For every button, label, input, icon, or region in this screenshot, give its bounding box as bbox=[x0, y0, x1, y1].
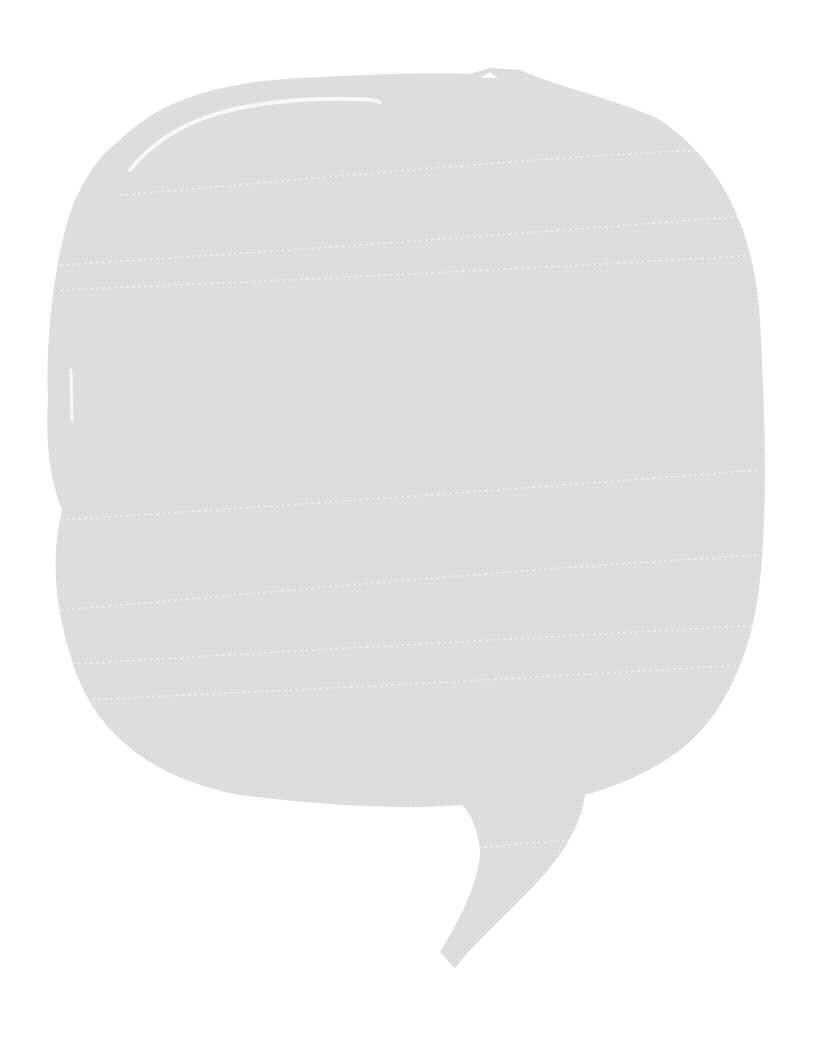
speech-bubble-graphic bbox=[0, 0, 814, 1046]
bubble-edge-highlight bbox=[71, 370, 72, 420]
speech-bubble bbox=[47, 68, 765, 968]
bubble-body bbox=[47, 68, 765, 968]
canvas bbox=[0, 0, 814, 1046]
